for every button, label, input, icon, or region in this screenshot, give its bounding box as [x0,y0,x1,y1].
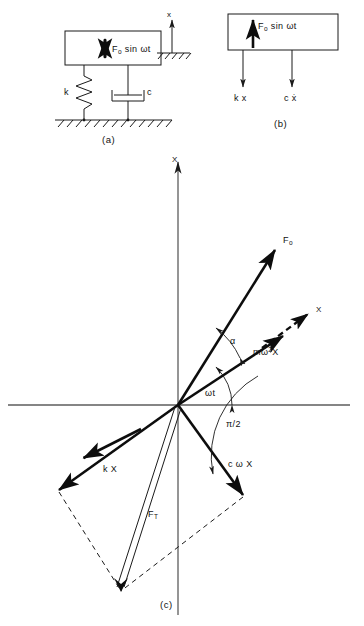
label-coordinate-x-a: x [167,10,171,19]
label-damping-coefficient-a: c [147,87,152,97]
label-angle-alpha: α [230,336,236,346]
mass-block-b [228,14,338,50]
angle-arc-omega-t [216,367,232,405]
vibration-figure-svg: Fo sin ωt k c x (a) Fo sin ωt k x c ẋ (b… [0,0,364,626]
angle-arc-alpha [216,328,240,358]
label-spring-constant-a: k [64,87,69,97]
label-vector-F0: Fo [283,235,293,246]
label-vector-FT: FT [148,509,158,520]
caption-panel-b: (b) [274,118,287,129]
label-applied-force-a: Fo sin ωt [112,44,151,55]
vector-FT-arrow-tip [114,578,128,592]
label-vector-m-omega2-X: mω2X [253,346,279,357]
caption-panel-c: (c) [160,599,173,610]
vector-FT-line-right [124,408,181,587]
reference-ground-hatching-a [158,53,191,59]
vector-FT-arrowhead [84,429,142,458]
label-vector-X: X [316,305,322,314]
label-damping-force-b: c ẋ [284,93,297,103]
vector-X-dashed [262,314,308,348]
panel-c-phasor-diagram: X Fo X mω2X k X c ω X FT [8,155,350,615]
caption-panel-a: (a) [102,134,115,145]
vector-kX [59,405,178,490]
construction-line-kX-to-FT [59,492,121,591]
ground-hatching-a [58,120,172,127]
construction-line-cwX-to-FT [121,497,243,591]
panel-a-schematic: Fo sin ωt k c x (a) [55,10,191,145]
spring-a [76,65,92,120]
label-vector-c-omega-X: c ω X [228,459,253,469]
label-applied-force-b: Fo sin ωt [258,21,297,32]
figure-root: Fo sin ωt k c x (a) Fo sin ωt k x c ẋ (b… [0,0,364,626]
label-angle-omega-t: ωt [205,388,215,398]
vector-FT-line-left [117,407,175,587]
panel-b-free-body: Fo sin ωt k x c ẋ (b) [228,14,338,129]
label-axis-X: X [172,155,178,164]
label-vector-kX: k X [103,464,117,474]
label-spring-force-b: k x [234,93,247,103]
label-angle-pi-over-2: π/2 [226,419,241,429]
